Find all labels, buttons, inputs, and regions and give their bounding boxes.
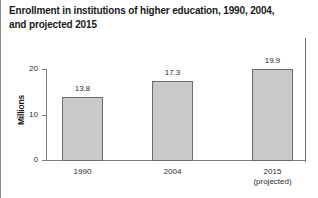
y-tick-mark-10 [42, 115, 47, 116]
y-tick-label-0: 0 [16, 156, 38, 164]
bar-value-1990: 13.8 [62, 85, 103, 93]
bar-value-2015-projected: 19.9 [252, 57, 293, 65]
chart-figure: Enrollment in institutions of higher edu… [0, 0, 318, 198]
bar-2004 [152, 81, 193, 161]
x-tick-label-1990: 1990 [57, 167, 108, 177]
x-tick-label-2015-year: 2015 [264, 167, 282, 176]
y-axis-title: Millions [16, 80, 26, 140]
y-tick-mark-0 [42, 160, 47, 161]
x-tick-label-2004: 2004 [147, 167, 198, 177]
bar-value-2004: 17.3 [152, 69, 193, 77]
y-tick-mark-20 [42, 69, 47, 70]
x-tick-label-2015: 2015 (projected) [247, 167, 298, 187]
y-tick-label-20: 20 [16, 65, 38, 73]
x-tick-label-2015-note: (projected) [247, 177, 298, 187]
bar-1990 [62, 97, 103, 161]
bar-2015-projected [252, 69, 293, 161]
x-tick-label-1990-year: 1990 [74, 167, 92, 176]
x-tick-label-2004-year: 2004 [164, 167, 182, 176]
plot-area: 20 10 0 Millions 13.8 17.3 19.9 1990 200… [0, 0, 318, 198]
